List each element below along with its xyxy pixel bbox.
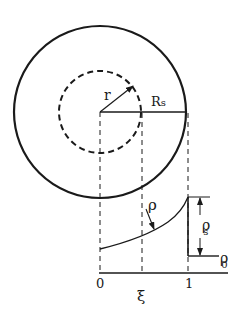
axis-label-zero: 0 — [96, 276, 104, 291]
diagram-canvas: r Rs ρ ρs ρ0 0 ξ 1 — [0, 0, 241, 314]
density-curve — [100, 197, 188, 249]
label-Rs: Rs — [151, 94, 166, 109]
label-rho-s-sub: s — [203, 226, 208, 237]
sphere-density-diagram: r Rs ρ ρs ρ0 0 ξ 1 — [0, 0, 241, 314]
axis-label-xi: ξ — [137, 287, 145, 305]
label-rho-s: ρs — [202, 217, 210, 237]
label-rho-0-sub: 0 — [221, 259, 227, 270]
axis-label-one: 1 — [185, 276, 193, 291]
label-Rs-sub: s — [161, 97, 166, 108]
label-rho-0: ρ0 — [220, 250, 228, 270]
label-r: r — [104, 87, 111, 103]
label-rho: ρ — [148, 196, 157, 214]
